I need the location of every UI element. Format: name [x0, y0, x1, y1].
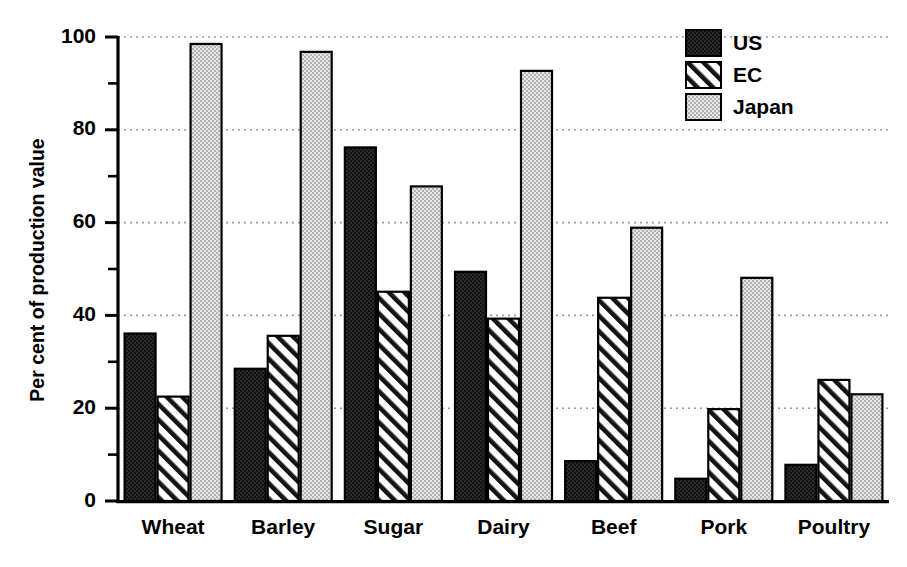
legend-label-us: US: [733, 31, 762, 54]
y-tick-label-0: 0: [84, 488, 96, 511]
x-tick-label-sugar: Sugar: [364, 515, 424, 538]
bar-us-sugar: [345, 147, 376, 501]
bar-us-poultry: [785, 465, 816, 501]
legend-label-ec: EC: [733, 63, 762, 86]
y-axis-title: Per cent of production value: [26, 138, 48, 401]
bar-japan-wheat: [191, 44, 222, 501]
x-tick-label-barley: Barley: [251, 515, 316, 538]
bar-japan-dairy: [521, 71, 552, 501]
legend-swatch-us: [686, 30, 721, 56]
bar-ec-dairy: [488, 319, 519, 501]
y-tick-label-20: 20: [73, 395, 96, 418]
chart-container: 020406080100 WheatBarleySugarDairyBeefPo…: [0, 0, 907, 567]
x-tick-label-pork: Pork: [700, 515, 747, 538]
bar-ec-pork: [708, 409, 739, 501]
bar-japan-sugar: [411, 186, 442, 501]
bar-japan-barley: [301, 52, 332, 501]
legend-swatch-ec: [686, 62, 721, 88]
bar-chart: 020406080100 WheatBarleySugarDairyBeefPo…: [0, 0, 907, 567]
legend-label-japan: Japan: [733, 95, 794, 118]
bar-us-wheat: [125, 333, 156, 501]
bar-japan-poultry: [851, 394, 882, 501]
bar-ec-poultry: [818, 380, 849, 501]
bar-ec-barley: [268, 336, 299, 501]
y-tick-label-40: 40: [73, 302, 96, 325]
bar-ec-sugar: [378, 292, 409, 501]
y-tick-label-60: 60: [73, 209, 96, 232]
bar-japan-beef: [631, 228, 662, 501]
bar-ec-wheat: [158, 397, 189, 501]
bar-ec-beef: [598, 298, 629, 501]
bar-japan-pork: [741, 278, 772, 501]
y-tick-label-100: 100: [61, 24, 96, 47]
x-tick-label-dairy: Dairy: [477, 515, 530, 538]
bar-us-barley: [235, 369, 266, 501]
x-tick-label-poultry: Poultry: [798, 515, 871, 538]
x-tick-label-wheat: Wheat: [142, 515, 205, 538]
bar-us-beef: [565, 461, 596, 501]
bar-us-dairy: [455, 272, 486, 501]
x-tick-label-beef: Beef: [591, 515, 638, 538]
bar-us-pork: [675, 479, 706, 501]
y-tick-label-80: 80: [73, 116, 96, 139]
legend-swatch-japan: [686, 94, 721, 120]
